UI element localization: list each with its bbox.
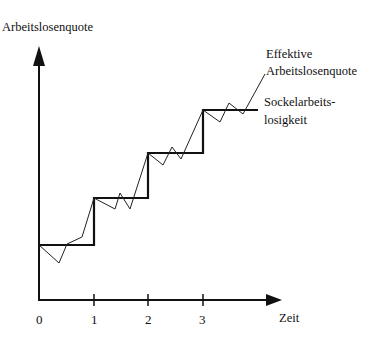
base-unemployment-label-line2: losigkeit — [264, 113, 307, 128]
x-tick-label-2: 2 — [145, 312, 152, 327]
x-tick-label-0: 0 — [36, 312, 43, 327]
x-axis-label: Zeit — [279, 311, 299, 326]
y-axis-label: Arbeitslosenquote — [2, 20, 93, 35]
effective-unemployment-line — [39, 74, 265, 263]
base-unemployment-label-line1: Sockelarbeits- — [264, 95, 336, 110]
effective-rate-label-line2: Arbeitslosenquote — [266, 64, 357, 79]
x-tick-label-3: 3 — [199, 312, 206, 327]
diagram-canvas — [0, 0, 381, 344]
effective-rate-label-line1: Effektive — [266, 47, 312, 62]
base-unemployment-step-line — [39, 110, 258, 245]
x-axis-arrow-icon — [266, 294, 282, 306]
y-axis-arrow-icon — [33, 46, 45, 66]
x-tick-label-1: 1 — [91, 312, 98, 327]
